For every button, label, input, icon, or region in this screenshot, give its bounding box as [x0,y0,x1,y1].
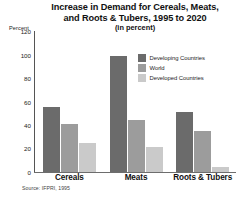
legend-label: Developing Countries [150,55,205,61]
chart-source-note: Source: IFPRI, 1995 [22,185,70,191]
legend-swatch-icon [138,74,146,82]
y-tick-label: 40 [9,122,31,129]
bar-cereals-world [61,124,78,172]
legend-item-developing-countries: Developing Countries [138,53,238,63]
x-label-cereals: Cereals [36,173,103,182]
chart-title-line-2: and Roots & Tubers, 1995 to 2020 [30,13,240,24]
y-tick-label: 0 [9,169,31,176]
x-label-meats: Meats [103,173,170,182]
chart-legend: Developing Countries World Developed Cou… [138,53,238,84]
y-tick-label: 60 [9,98,31,105]
legend-label: Developed Countries [150,75,204,81]
chart-title-line-1: Increase in Demand for Cereals, Meats, [30,2,240,13]
bar-roots-world [194,131,211,172]
chart-title-block: Increase in Demand for Cereals, Meats, a… [30,2,240,33]
bar-meats-developed [146,147,163,172]
bar-roots-developing [176,112,193,172]
y-tick-label: 20 [9,145,31,152]
y-tick-label: 120 [9,28,31,35]
y-tick-label: 100 [9,51,31,58]
x-label-roots-tubers: Roots & Tubers [169,173,236,182]
x-axis-category-labels: Cereals Meats Roots & Tubers [36,173,236,182]
legend-swatch-icon [138,64,146,72]
bar-group-cereals [36,31,103,172]
bar-roots-developed [212,167,229,172]
bar-meats-world [128,120,145,172]
legend-item-developed-countries: Developed Countries [138,73,238,83]
bar-cereals-developed [79,143,96,172]
legend-label: World [150,65,165,71]
chart-figure: Increase in Demand for Cereals, Meats, a… [0,0,244,200]
legend-swatch-icon [138,54,146,62]
bar-meats-developing [110,56,127,172]
bar-cereals-developing [43,107,60,172]
legend-item-world: World [138,63,238,73]
y-tick-label: 80 [9,74,31,81]
